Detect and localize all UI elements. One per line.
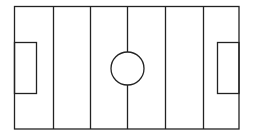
center-circle (111, 52, 144, 85)
soccer-field-diagram (0, 0, 253, 136)
field-boundary (15, 7, 240, 130)
right-penalty-box (218, 43, 240, 94)
left-penalty-box (15, 43, 37, 94)
